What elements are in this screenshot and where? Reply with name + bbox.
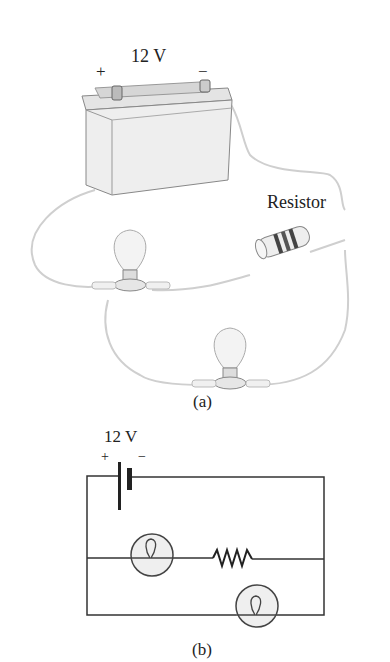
figure-a-caption: (a) bbox=[193, 392, 212, 412]
lamp-symbol-2 bbox=[236, 585, 278, 627]
battery-symbol bbox=[118, 462, 132, 510]
bulb-1-illustration bbox=[92, 230, 170, 291]
positive-terminal bbox=[112, 86, 122, 100]
schematic-minus-label: − bbox=[138, 449, 146, 465]
lamp-symbol-1 bbox=[131, 534, 173, 576]
battery-plus-label: + bbox=[96, 62, 106, 82]
battery-minus-label: − bbox=[198, 62, 208, 82]
schematic-wires bbox=[87, 476, 324, 615]
battery-voltage-label: 12 V bbox=[131, 46, 166, 67]
resistor-illustration bbox=[253, 224, 311, 260]
schematic-voltage-label: 12 V bbox=[104, 427, 137, 447]
resistor-symbol bbox=[213, 550, 252, 566]
pictorial-circuit bbox=[0, 0, 390, 420]
battery-illustration bbox=[82, 80, 232, 195]
bulb-2-illustration bbox=[192, 328, 270, 389]
resistor-label: Resistor bbox=[267, 192, 326, 213]
figure-b-caption: (b) bbox=[192, 640, 212, 660]
schematic-plus-label: + bbox=[101, 449, 109, 465]
